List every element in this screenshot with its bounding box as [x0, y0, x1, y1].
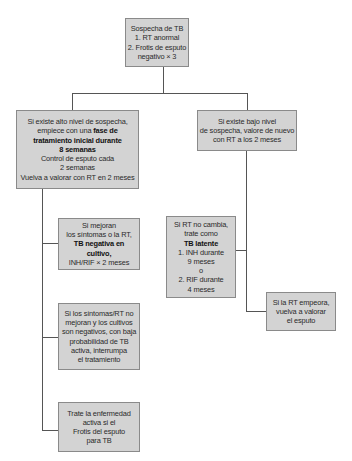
- connector-to-improve: [42, 243, 58, 244]
- connector-to-worsens: [246, 311, 266, 312]
- treat-line-4: para TB: [86, 436, 111, 445]
- high-line-2: empiece con una fase de: [37, 126, 117, 135]
- noimp-line-2: mejoran y los cultivos: [65, 318, 132, 327]
- latent-line-6: o: [199, 266, 203, 275]
- treat-line-1: Trate la enfermedad: [67, 409, 130, 418]
- high-line-1: Si existe alto nivel de sospecha,: [27, 117, 127, 126]
- low-suspicion-box: Si existe bajo nivel de sospecha, valore…: [197, 110, 297, 151]
- root-line-4: negativo × 3: [138, 52, 177, 61]
- worsens-line-3: el esputo: [287, 316, 316, 325]
- noimp-line-5: activa, interrumpa: [71, 346, 127, 355]
- improve-box: Si mejoran los síntomas o la RT, TB nega…: [58, 218, 140, 270]
- latent-line-7: 2. RIF durante: [178, 275, 223, 284]
- no-improve-box: Si los síntomas/RT no mejoran y los cult…: [58, 303, 140, 370]
- low-line-1: Si existe bajo nivel: [218, 117, 276, 126]
- high-line-2b: fase de: [93, 126, 117, 135]
- connector-to-low: [247, 93, 248, 110]
- improve-line-4: INH/RIF × 2 meses: [69, 258, 130, 267]
- connector-to-high: [72, 93, 73, 110]
- improve-line-2: los síntomas o la RT,: [66, 230, 131, 239]
- high-line-2a: empiece con una: [37, 126, 91, 135]
- connector-to-latent: [236, 250, 246, 251]
- worsens-box: Si la RT empeora, vuelva a valorar el es…: [266, 292, 336, 331]
- treat-line-3: Frotis del esputo: [73, 427, 125, 436]
- worsens-line-2: vuelva a valorar: [276, 307, 326, 316]
- high-suspicion-box: Si existe alto nivel de sospecha, empiec…: [16, 110, 139, 189]
- worsens-line-1: Si la RT empeora,: [273, 298, 330, 307]
- high-line-7: Vuelva a valorar con RT en 2 meses: [21, 173, 135, 182]
- connector-to-treat: [42, 430, 58, 431]
- connector-split: [72, 93, 248, 94]
- noimp-line-4: probabilidad de TB: [69, 337, 128, 346]
- latent-line-1: Si RT no cambia,: [174, 220, 228, 229]
- root-line-3: 2. Frotis de esputo: [128, 43, 186, 52]
- root-box: Sospecha de TB 1. RT anormal 2. Frotis d…: [125, 18, 189, 67]
- root-line-1: Sospecha de TB: [131, 24, 183, 33]
- latent-box: Si RT no cambia, trate como TB latente 1…: [166, 216, 236, 298]
- treat-active-box: Trate la enfermedad activa si el Frotis …: [58, 402, 140, 452]
- noimp-line-1: Si los síntomas/RT no: [65, 309, 134, 318]
- high-line-4: 8 semanas: [59, 145, 95, 154]
- connector-left-trunk: [42, 188, 43, 430]
- latent-line-4: 1. INH durante: [178, 248, 224, 257]
- improve-line-1: Si mejoran: [82, 221, 116, 230]
- latent-line-8: 4 meses: [188, 285, 215, 294]
- low-line-3: con RT a los 2 meses: [213, 135, 281, 144]
- high-line-3: tratamiento inicial durante: [33, 136, 121, 145]
- noimp-line-6: el tratamiento: [78, 355, 121, 364]
- latent-line-3: TB latente: [184, 239, 218, 248]
- connector-right-trunk: [246, 150, 247, 312]
- treat-line-2: activa si el: [83, 418, 116, 427]
- connector-to-no-improve: [42, 337, 58, 338]
- connector-root-down: [163, 66, 164, 93]
- latent-line-2: trate como: [184, 229, 217, 238]
- root-line-2: 1. RT anormal: [135, 33, 180, 42]
- high-line-6: 2 semanas: [60, 163, 95, 172]
- low-line-2: de sospecha, valore de nuevo: [200, 126, 294, 135]
- high-line-5: Control de esputo cada: [41, 154, 114, 163]
- latent-line-5: 9 meses: [188, 257, 215, 266]
- noimp-line-3: son negativos, con baja: [62, 327, 136, 336]
- improve-line-3: TB negativa en cultivo,: [61, 239, 137, 257]
